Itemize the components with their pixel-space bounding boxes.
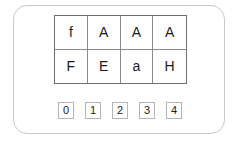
- letter-cell-r0c1[interactable]: A: [88, 16, 121, 50]
- letter-cell-label: H: [165, 59, 175, 73]
- digit-box-4[interactable]: 4: [166, 102, 182, 119]
- digit-box-label: 0: [63, 105, 69, 116]
- digit-row: 0 1 2 3 4: [58, 101, 182, 120]
- character-grid-card: f A A A F E a H 0 1 2 3 4: [13, 5, 225, 134]
- letter-cell-label: A: [99, 25, 108, 39]
- digit-box-label: 3: [144, 105, 150, 116]
- screen-root: f A A A F E a H 0 1 2 3 4: [0, 0, 238, 145]
- digit-box-1[interactable]: 1: [85, 102, 101, 119]
- digit-box-0[interactable]: 0: [58, 102, 74, 119]
- letter-cell-r1c1[interactable]: E: [88, 50, 121, 84]
- letter-cell-r1c3[interactable]: H: [153, 50, 186, 84]
- letter-cell-label: F: [67, 59, 76, 73]
- letter-cell-r1c2[interactable]: a: [121, 50, 154, 84]
- letter-cell-label: f: [69, 25, 73, 39]
- digit-box-label: 1: [90, 105, 96, 116]
- letter-cell-label: A: [132, 25, 141, 39]
- digit-box-label: 4: [171, 105, 177, 116]
- letter-cell-r0c2[interactable]: A: [121, 16, 154, 50]
- letter-cell-r0c0[interactable]: f: [55, 16, 88, 50]
- letter-cell-label: a: [132, 59, 140, 73]
- digit-box-label: 2: [117, 105, 123, 116]
- digit-box-3[interactable]: 3: [139, 102, 155, 119]
- letter-grid: f A A A F E a H: [54, 15, 187, 84]
- letter-cell-label: A: [165, 25, 174, 39]
- digit-box-2[interactable]: 2: [112, 102, 128, 119]
- letter-cell-r1c0[interactable]: F: [55, 50, 88, 84]
- letter-cell-label: E: [99, 59, 108, 73]
- letter-cell-r0c3[interactable]: A: [153, 16, 186, 50]
